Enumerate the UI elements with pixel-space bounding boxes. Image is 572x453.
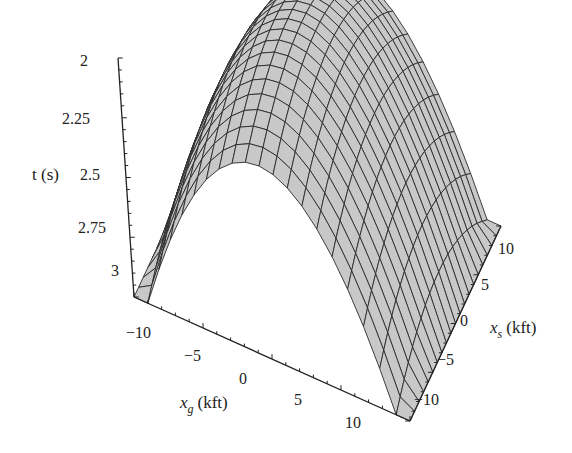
t-tick-label: 2.25	[62, 110, 90, 127]
xs-axis-label: xs(kft)	[489, 318, 536, 341]
t-tick-label: 3	[111, 262, 119, 279]
xg-axis-label: xg(kft)	[179, 393, 228, 416]
t-tick-label: 2.5	[80, 166, 100, 183]
t-axis: 2 2.25 2.5 2.75 3 t (s)	[32, 52, 139, 297]
xs-tick-label: 10	[498, 240, 514, 257]
xg-tick-label: 0	[239, 370, 247, 387]
xg-tick-label: −5	[184, 347, 201, 364]
xg-tick-label: 10	[345, 414, 361, 431]
xs-tick-label: −5	[437, 351, 454, 368]
xs-tick-label: 0	[460, 312, 468, 329]
surface-plot: 2 2.25 2.5 2.75 3 t (s) −10 −5 0 5 10 xg…	[0, 0, 572, 453]
xg-tick-label: −10	[126, 324, 151, 341]
xg-tick-label: 5	[294, 391, 302, 408]
xs-tick-label: −10	[414, 391, 439, 408]
t-axis-label: t (s)	[32, 165, 59, 184]
t-tick-label: 2.75	[78, 219, 106, 236]
t-tick-label: 2	[80, 52, 88, 69]
xs-tick-label: 5	[481, 276, 489, 293]
